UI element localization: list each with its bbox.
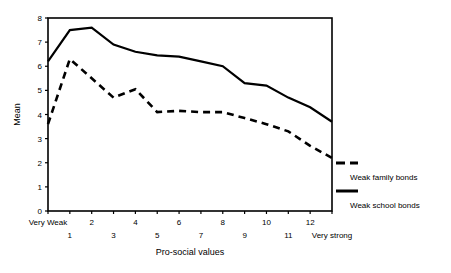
y-axis-tick-label: 7: [38, 38, 43, 47]
x-axis-tick-label: 11: [284, 231, 293, 240]
x-axis-tick-label: 7: [199, 231, 204, 240]
x-axis-tick-label: 12: [306, 218, 315, 227]
y-axis-title: Mean: [12, 103, 22, 126]
y-axis-tick-label: 5: [38, 86, 43, 95]
y-axis-tick-label: 0: [38, 207, 43, 216]
x-axis-tick-label: 10: [262, 218, 271, 227]
x-axis-tick-label: 2: [89, 218, 94, 227]
series-line-weak-family-bonds: [48, 59, 332, 158]
x-axis-tick-label: Very strong: [312, 231, 352, 240]
x-axis-tick-label: 6: [177, 218, 182, 227]
x-axis-tick-label: 4: [133, 218, 138, 227]
y-axis-tick-label: 8: [38, 14, 43, 23]
y-axis-tick-label: 1: [38, 183, 43, 192]
legend-label: Weak school bonds: [350, 201, 420, 210]
x-axis-title: Pro-social values: [156, 247, 225, 257]
y-axis-tick-label: 4: [38, 111, 43, 120]
x-axis-tick-label: 3: [111, 231, 116, 240]
y-axis-tick-label: 6: [38, 62, 43, 71]
line-chart: 012345678MeanVery Weak246810121357911Ver…: [0, 0, 451, 273]
y-axis-tick-label: 3: [38, 135, 43, 144]
x-axis-tick-label: 5: [155, 231, 160, 240]
x-axis-tick-label: 9: [242, 231, 247, 240]
series-line-weak-school-bonds: [48, 28, 332, 122]
x-axis-tick-label: 1: [68, 231, 73, 240]
x-axis-tick-label: 8: [221, 218, 226, 227]
x-axis-tick-label: Very Weak: [29, 218, 69, 227]
chart-figure: 012345678MeanVery Weak246810121357911Ver…: [0, 0, 451, 273]
y-axis-tick-label: 2: [38, 159, 43, 168]
legend-label: Weak family bonds: [350, 173, 417, 182]
plot-frame: [48, 18, 332, 211]
